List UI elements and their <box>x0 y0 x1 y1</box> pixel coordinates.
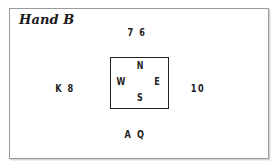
hand-diagram-frame: Hand B 7 6 K 8 10 A Q N W E S <box>9 8 269 159</box>
west-holding: K 8 <box>53 82 76 94</box>
south-holding: A Q <box>123 128 146 140</box>
north-holding: 7 6 <box>125 26 148 38</box>
compass-west-label: W <box>116 76 126 87</box>
east-holding: 10 <box>186 82 209 94</box>
compass-box: N W E S <box>110 57 169 109</box>
compass-north-label: N <box>135 60 145 71</box>
compass-south-label: S <box>135 92 145 103</box>
hand-title: Hand B <box>19 12 74 27</box>
compass-east-label: E <box>152 76 162 87</box>
